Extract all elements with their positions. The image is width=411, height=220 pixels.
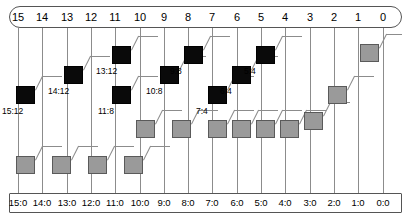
top-index-1: 1: [346, 8, 370, 26]
node-n-g8[interactable]: [136, 120, 155, 138]
node-label-10-8: 10:8: [146, 86, 163, 96]
connector-horizontal: [282, 110, 302, 111]
top-index-15: 15: [6, 8, 30, 26]
node-label-13-12: 13:12: [96, 66, 117, 76]
connector-diagonal: [107, 146, 115, 160]
top-index-7: 7: [200, 8, 224, 26]
top-index-6: 6: [225, 8, 249, 26]
top-index-14: 14: [30, 8, 54, 26]
connector-horizontal: [138, 36, 158, 37]
connector-diagonal: [155, 110, 163, 124]
top-index-12: 12: [79, 8, 103, 26]
column-line-2: [334, 28, 335, 193]
connector-horizontal: [78, 146, 98, 147]
node-n-g13[interactable]: [280, 120, 299, 138]
connector-diagonal: [131, 36, 139, 50]
node-5-4[interactable]: [256, 46, 275, 64]
node-n-g9[interactable]: [172, 120, 191, 138]
connector-horizontal: [306, 110, 326, 111]
connector-horizontal: [234, 110, 254, 111]
connector-diagonal: [83, 56, 91, 70]
node-n-g6[interactable]: [88, 156, 107, 174]
column-line-1: [358, 28, 359, 193]
node-label-9-8: 9:8: [170, 66, 182, 76]
top-index-13: 13: [55, 8, 79, 26]
top-index-2: 2: [322, 8, 346, 26]
connector-diagonal: [143, 146, 151, 160]
connector-horizontal: [114, 146, 134, 147]
column-line-14: [42, 28, 43, 193]
connector-horizontal: [90, 56, 110, 57]
node-n-g7[interactable]: [124, 156, 143, 174]
node-n-g4[interactable]: [16, 156, 35, 174]
node-n-g2[interactable]: [328, 86, 347, 104]
connector-horizontal: [210, 36, 230, 37]
top-index-9: 9: [152, 8, 176, 26]
connector-horizontal: [150, 146, 170, 147]
connector-diagonal: [203, 36, 211, 50]
connector-horizontal: [42, 146, 62, 147]
node-label-6-4: 6:4: [220, 86, 232, 96]
top-index-10: 10: [128, 8, 152, 26]
top-index-11: 11: [103, 8, 127, 26]
top-index-8: 8: [176, 8, 200, 26]
connector-diagonal: [275, 36, 283, 50]
connector-horizontal: [258, 110, 278, 111]
node-label-5-4: 5:4: [244, 66, 256, 76]
node-n-g12[interactable]: [256, 120, 275, 138]
connector-diagonal: [131, 76, 139, 90]
connector-horizontal: [282, 36, 302, 37]
top-index-5: 5: [249, 8, 273, 26]
connector-diagonal: [71, 146, 79, 160]
node-label-14-12: 14:12: [48, 86, 69, 96]
diagram-canvas: 15:1214:1213:1211:810:89:87:46:45:4 1514…: [0, 0, 411, 220]
column-line-0: [383, 28, 384, 193]
node-label-15-12: 15:12: [2, 106, 23, 116]
node-label-11-8: 11:8: [98, 106, 114, 116]
top-index-4: 4: [273, 8, 297, 26]
top-index-3: 3: [298, 8, 322, 26]
node-n-g3[interactable]: [360, 44, 379, 62]
connector-horizontal: [354, 76, 374, 77]
connector-horizontal: [386, 34, 402, 35]
node-15-12[interactable]: [16, 86, 35, 104]
connector-diagonal: [347, 76, 355, 90]
node-n-g1[interactable]: [304, 112, 323, 130]
node-9-8[interactable]: [184, 46, 203, 64]
connector-horizontal: [138, 76, 158, 77]
node-n-g10[interactable]: [208, 120, 227, 138]
node-label-7-4: 7:4: [196, 106, 208, 116]
node-11-8[interactable]: [112, 86, 131, 104]
connector-horizontal: [162, 110, 182, 111]
node-n-g5[interactable]: [52, 156, 71, 174]
node-14-12[interactable]: [64, 66, 83, 84]
node-13-12[interactable]: [112, 46, 131, 64]
bottom-range-0-0: 0:0: [368, 195, 398, 211]
top-index-0: 0: [371, 8, 395, 26]
connector-horizontal: [42, 76, 62, 77]
node-n-g11[interactable]: [232, 120, 251, 138]
